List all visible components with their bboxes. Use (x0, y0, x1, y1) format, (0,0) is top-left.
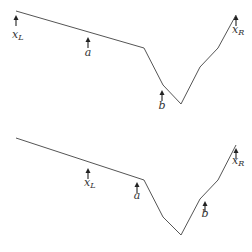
marker-b: b (201, 201, 208, 220)
marker-label: a (134, 189, 141, 202)
marker-a: a (134, 182, 141, 202)
marker-label: a (85, 46, 92, 59)
arrowhead-icon (160, 90, 165, 95)
function-curve (16, 11, 236, 104)
marker-x-l: xL (84, 168, 96, 190)
panel-top: xLabxR (12, 11, 244, 112)
arrowhead-icon (86, 168, 91, 173)
marker-label: b (201, 207, 208, 220)
arrowhead-icon (86, 37, 91, 42)
marker-label: xL (84, 176, 96, 190)
arrowhead-icon (14, 15, 19, 20)
diagram-canvas: xLabxRxLabxR (0, 0, 252, 252)
marker-label: xR (232, 23, 244, 37)
marker-b: b (158, 90, 165, 112)
marker-a: a (85, 37, 92, 59)
bracketing-diagram: xLabxRxLabxR (0, 0, 252, 252)
arrowhead-icon (135, 182, 140, 187)
function-curve (16, 138, 236, 235)
marker-label: xR (232, 154, 244, 168)
marker-x-r: xR (232, 148, 244, 168)
marker-label: xL (12, 28, 24, 42)
marker-label: b (158, 99, 165, 112)
arrowhead-icon (203, 201, 208, 206)
panel-bottom: xLabxR (16, 138, 244, 235)
marker-x-l: xL (12, 15, 24, 42)
